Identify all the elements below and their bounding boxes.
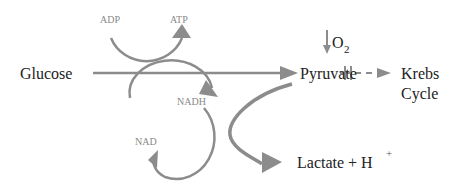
glycolysis-diagram: Glucose Pyruvate Krebs Cycle Lactate + H… xyxy=(0,0,460,187)
lactate-superscript: + xyxy=(386,147,392,159)
adp-to-atp-arc xyxy=(111,38,182,61)
atp-arrowhead xyxy=(172,24,191,38)
glucose-label: Glucose xyxy=(20,65,72,82)
krebs-label-line1: Krebs xyxy=(401,65,439,82)
krebs-arrowhead xyxy=(377,68,391,78)
nad-label: NAD xyxy=(135,136,157,147)
oxygen-arrowhead xyxy=(323,45,331,54)
lactate-label: Lactate + H xyxy=(297,154,373,171)
nadh-arrowhead xyxy=(199,80,218,97)
glucose-to-pyruvate-arrowhead xyxy=(280,66,298,80)
krebs-label-line2: Cycle xyxy=(401,85,438,103)
oxygen-label: O xyxy=(332,34,344,51)
nadh-label: NADH xyxy=(177,96,206,107)
oxygen-subscript: 2 xyxy=(344,43,350,55)
pyruvate-to-lactate-arc xyxy=(230,84,292,164)
adp-label: ADP xyxy=(100,14,120,25)
atp-label: ATP xyxy=(170,14,188,25)
lactate-arrowhead xyxy=(262,152,282,173)
nad-to-nadh-arc xyxy=(130,60,212,98)
nadh-to-nad-arc xyxy=(154,108,215,179)
pyruvate-label: Pyruvate xyxy=(300,65,357,83)
